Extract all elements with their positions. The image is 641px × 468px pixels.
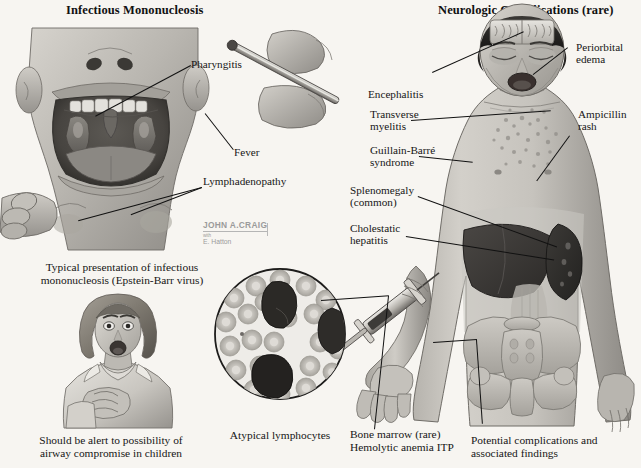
caption-atypical-lymphocytes: Atypical lymphocytes bbox=[212, 429, 348, 442]
label-guillain-barre-syndrome: Guillain-Barré syndrome bbox=[370, 144, 435, 169]
label-pharyngitis: Pharyngitis bbox=[191, 58, 242, 70]
label-transverse-myelitis: Transverse myelitis bbox=[370, 108, 419, 133]
signature-name: JOHN A.CRAIG bbox=[203, 220, 267, 232]
label-periorbital-edema: Periorbital edema bbox=[576, 41, 623, 66]
caption-airway-compromise: Should be alert to possibility of airway… bbox=[8, 434, 214, 460]
caption-bone-marrow: Bone marrow (rare) Hemolytic anemia ITP bbox=[350, 428, 470, 454]
panel-title-left: Infectious Mononucleosis bbox=[66, 3, 203, 18]
artist-signature: JOHN A.CRAIG with E. Hatton bbox=[203, 220, 267, 245]
label-ampicillin-rash: Ampicillin rash bbox=[578, 108, 626, 133]
label-lymphadenopathy: Lymphadenopathy bbox=[203, 175, 286, 187]
signature-second-artist: E. Hatton bbox=[203, 238, 267, 245]
label-cholestatic-hepatitis: Cholestatic hepatitis bbox=[350, 222, 400, 247]
caption-potential-complications: Potential complications and associated f… bbox=[471, 434, 631, 460]
signature-tick-mark bbox=[267, 223, 268, 236]
thermometer-and-fingers-illustration bbox=[246, 26, 356, 156]
label-splenomegaly: Splenomegaly (common) bbox=[350, 184, 414, 209]
blood-smear-micrograph bbox=[214, 264, 346, 406]
label-fever: Fever bbox=[234, 146, 259, 158]
arm-with-syringe-illustration bbox=[348, 272, 448, 422]
label-encephalitis: Encephalitis bbox=[368, 88, 423, 100]
distressed-girl-illustration bbox=[58, 296, 180, 428]
caption-typical-presentation: Typical presentation of infectious monon… bbox=[22, 261, 222, 287]
illustration-plate: Infectious Mononucleosis Neurologic Comp… bbox=[0, 0, 641, 468]
